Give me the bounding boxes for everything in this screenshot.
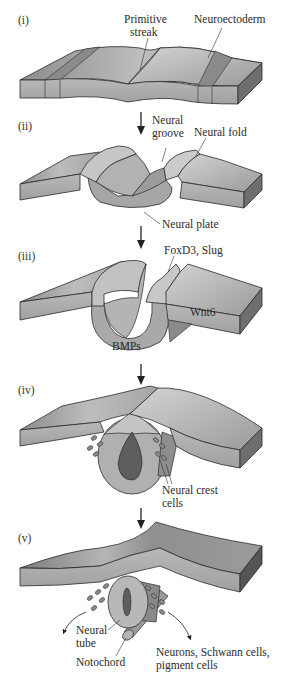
stage-i: (i) Primitive streak Neuroectoderm [0, 0, 284, 112]
neural-tube-closure-illustration [0, 384, 284, 520]
neural-folds-elevating-illustration [0, 242, 284, 372]
stage-v: (v) Neural tube [0, 520, 284, 680]
stage-iv: (iv) Neural crest cells [0, 384, 284, 520]
down-arrow-3 [136, 364, 146, 386]
stage-ii: (ii) Neural groove Neural fold Neural pl… [0, 112, 284, 242]
primitive-streak-label-line2: streak [130, 26, 157, 38]
stage-iii: (iii) FoxD3, Slug Wnt6 BMPs [0, 242, 284, 372]
neural-crest-cells-label: Neural crest [162, 484, 218, 496]
primitive-streak-label: Primitive [124, 13, 167, 25]
neural-plate-label: Neural plate [162, 218, 219, 230]
neural-crest-cells-label-line2: cells [162, 497, 183, 509]
neural-groove-label-line2: groove [152, 127, 184, 139]
neural-tube-label: Neural [76, 624, 107, 636]
crest-derivatives-label-line2: pigment cells [156, 659, 218, 671]
wnt6-label: Wnt6 [190, 306, 216, 318]
neural-groove-label: Neural [152, 114, 183, 126]
notochord-label: Notochord [76, 656, 125, 668]
crest-derivatives-label: Neurons, Schwann cells, [156, 646, 270, 658]
neural-tube-label-line2: tube [76, 637, 96, 649]
bmps-label: BMPs [112, 340, 141, 352]
neuroectoderm-label: Neuroectoderm [194, 13, 266, 25]
foxd3-slug-label: FoxD3, Slug [164, 244, 223, 256]
neural-fold-label: Neural fold [194, 126, 247, 138]
